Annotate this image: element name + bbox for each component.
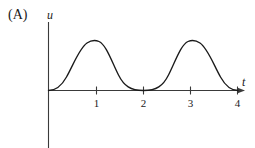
figure-container: (A) u t 1 2 3 4 (0, 0, 255, 148)
tick-label-2: 2 (141, 97, 147, 109)
waveform-plot: u t 1 2 3 4 (0, 0, 255, 148)
tick-label-1: 1 (94, 97, 100, 109)
t-axis-label: t (242, 75, 246, 89)
tick-label-3: 3 (188, 97, 194, 109)
waveform-curve (49, 41, 239, 91)
u-axis-label: u (47, 8, 53, 22)
tick-label-4: 4 (235, 97, 241, 109)
